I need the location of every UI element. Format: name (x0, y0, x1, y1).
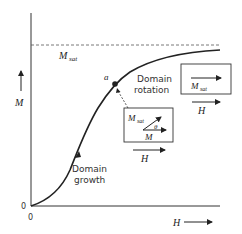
pointer-dotted-line (118, 91, 128, 108)
point-a-dot (112, 81, 118, 87)
middle-box-msat-label: M (127, 113, 136, 123)
theta-label: θ (154, 123, 158, 131)
right-box-msat-label: M (190, 81, 199, 91)
x-axis-label: H (172, 217, 181, 228)
msat-label: M (58, 50, 68, 61)
right-box-msat-sub: sat (200, 86, 207, 92)
magnetization-curve (31, 50, 220, 206)
middle-box-msat-sub: sat (137, 118, 144, 124)
domain-rotation-label-line1: Domain (137, 74, 172, 84)
magnetization-diagram: a M M sat 0 0 H Domain growth Domain rot… (0, 0, 242, 234)
point-a-label: a (104, 72, 109, 82)
pointer-arrow-icon (116, 88, 121, 93)
msat-label-sub: sat (69, 55, 78, 63)
y-origin-label: 0 (21, 202, 26, 211)
middle-field-label: H (140, 153, 149, 164)
x-origin-label: 0 (28, 213, 33, 222)
y-axis-label: M (14, 97, 24, 108)
domain-growth-label-line1: Domain (72, 164, 107, 174)
right-field-label: H (197, 105, 206, 116)
msat-tilted-vector-arrow-icon (143, 117, 161, 130)
domain-rotation-label-line2: rotation (134, 85, 169, 95)
domain-growth-label-line2: growth (74, 175, 105, 185)
middle-box-m-label: M (144, 132, 153, 142)
